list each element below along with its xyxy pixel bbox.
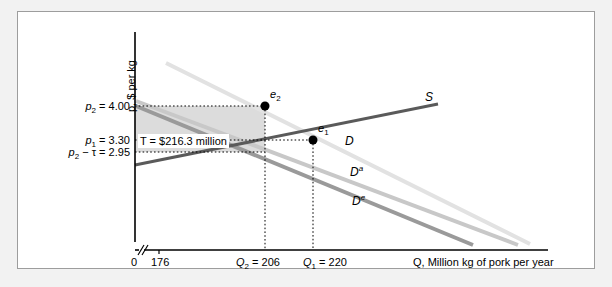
figure-panel: p, $ per kg p2 = 4.00 p1 = 3.30 p2 − τ =…	[17, 11, 595, 269]
point-label-e1: e1	[318, 122, 329, 137]
x-tick-q1-value: = 220	[316, 256, 347, 268]
chart-plot-area: p, $ per kg p2 = 4.00 p1 = 3.30 p2 − τ =…	[18, 12, 596, 270]
y-tick-label-p2-minus-tau: p2 − τ = 2.95	[38, 146, 130, 161]
point-e2-subscript: 2	[276, 94, 280, 103]
tax-revenue-annotation: T = $216.3 million	[138, 134, 229, 148]
x-tick-q1-symbol: Q	[303, 256, 312, 268]
x-tick-q2-symbol: Q	[236, 256, 245, 268]
curve-label-d-e: De	[352, 193, 365, 208]
curve-d-e-symbol: D	[352, 194, 361, 208]
point-e2	[261, 102, 270, 111]
demand-curve-d-e	[136, 106, 473, 245]
curve-d-a-superscript: a	[359, 164, 363, 173]
x-tick-label-176: 176	[151, 256, 169, 268]
point-label-e2: e2	[270, 88, 281, 103]
x-tick-q2-value: = 206	[249, 256, 280, 268]
y-tick-p2tau-value: − τ = 2.95	[79, 146, 130, 158]
x-tick-label-q2: Q2 = 206	[236, 256, 280, 271]
point-e1-subscript: 1	[324, 128, 328, 137]
y-tick-p1-value: = 3.30	[96, 134, 130, 146]
curve-d-e-superscript: e	[361, 193, 365, 202]
curve-label-d: D	[345, 134, 354, 148]
point-e1	[309, 136, 318, 145]
x-axis-title: Q, Million kg of pork per year	[413, 256, 554, 268]
y-tick-label-p2: p2 = 4.00	[58, 100, 130, 115]
y-tick-p2-value: = 4.00	[96, 100, 130, 112]
curve-label-s: S	[425, 90, 433, 104]
demand-curve-d	[166, 63, 530, 244]
curve-d-a-symbol: D	[350, 165, 359, 179]
x-tick-label-zero: 0	[131, 256, 137, 268]
curve-label-d-a: Da	[350, 164, 363, 179]
x-tick-label-q1: Q1 = 220	[303, 256, 347, 271]
